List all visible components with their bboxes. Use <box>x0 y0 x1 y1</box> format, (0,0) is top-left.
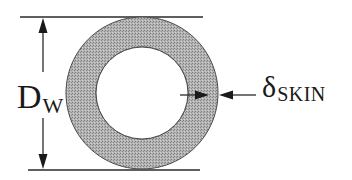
wire-core <box>96 47 188 139</box>
skin-depth-subscript: SKIN <box>277 83 326 105</box>
outer-diameter-label: DW <box>17 78 63 116</box>
arrowhead-up-icon <box>39 18 48 33</box>
outer-diameter-symbol: D <box>17 78 42 115</box>
skin-depth-label: δSKIN <box>262 72 326 102</box>
arrowhead-left-icon <box>219 91 233 100</box>
skin-depth-symbol: δ <box>262 70 276 103</box>
outer-diameter-subscript: W <box>43 93 64 118</box>
arrowhead-down-icon <box>39 154 48 169</box>
